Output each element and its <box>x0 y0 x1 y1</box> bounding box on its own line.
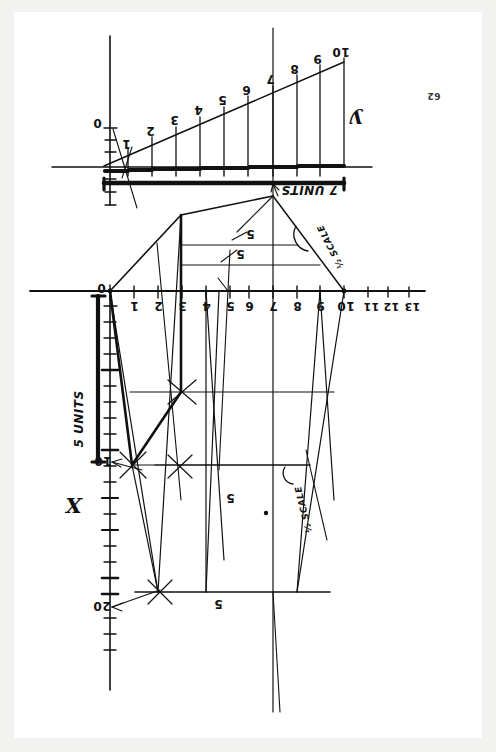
x-tick-1: 1 <box>130 300 139 312</box>
scanned-page: 0 1 2 3 4 5 6 7 8 9 10 y 7 UNITS 62 ½ SC… <box>0 0 496 752</box>
five-units-label: 5 UNITS <box>73 390 85 447</box>
callout-five-1: 5 <box>246 228 255 240</box>
marker-dot <box>264 511 268 515</box>
diag-tick-7: 7 <box>266 73 275 85</box>
x-tick-10: 10 <box>337 300 355 312</box>
callout-five-4: 5 <box>214 598 223 610</box>
x-tick-8: 8 <box>293 300 302 312</box>
x-tick-5: 5 <box>226 300 235 312</box>
technical-drawing <box>0 0 496 752</box>
diag-tick-2: 2 <box>146 125 155 137</box>
x-tick-2: 2 <box>154 300 163 312</box>
fan-line-a <box>110 291 158 592</box>
y-tick-10: 10 <box>94 455 112 467</box>
x-tick-7: 7 <box>269 300 278 312</box>
cross-marks <box>120 380 196 604</box>
leader-to-20-head-b <box>112 607 122 611</box>
diag-tick-4: 4 <box>194 104 203 116</box>
fan-line-k <box>297 291 344 592</box>
callout-five-2: 5 <box>236 248 245 260</box>
fan-line-i <box>297 291 320 592</box>
diag-tick-8: 8 <box>290 63 299 75</box>
diag-tick-1: 1 <box>122 138 131 150</box>
fan-line-m <box>237 196 273 232</box>
diag-tick-0: 0 <box>93 117 102 129</box>
diag-tick-3: 3 <box>170 114 179 126</box>
half-scale-arc-lower <box>283 467 293 484</box>
x-tick-9: 9 <box>316 300 325 312</box>
five-callout-leader-3 <box>218 278 228 291</box>
origin-dot <box>108 289 113 294</box>
x-tick-12: 12 <box>383 301 399 312</box>
diag-tick-6: 6 <box>242 84 251 96</box>
x-tick-6: 6 <box>245 300 254 312</box>
x-tick-0: 0 <box>97 282 106 294</box>
y-axis-label: y <box>350 110 363 131</box>
y-tick-20: 20 <box>93 600 111 612</box>
x-tick-3: 3 <box>178 300 187 312</box>
leader-to-20-head-a <box>112 603 123 607</box>
bottom-tail-line <box>273 592 280 712</box>
fan-line-j <box>320 291 334 500</box>
leader-to-10-head-a <box>112 459 122 462</box>
x-tick-4: 4 <box>202 300 211 312</box>
endpoint-dot <box>342 289 347 294</box>
fan-line-b <box>132 465 158 592</box>
half-scale-arc-upper <box>294 226 308 251</box>
x-tick-11: 11 <box>363 301 379 312</box>
envelope-upper-left <box>110 196 273 291</box>
page-number: 62 <box>427 91 441 100</box>
diag-tick-9: 9 <box>313 53 322 65</box>
x-tick-13: 13 <box>404 301 420 312</box>
x-axis-label: X <box>65 495 82 516</box>
horizontal-axis-ticks <box>110 285 409 300</box>
callout-five-3: 5 <box>226 492 235 504</box>
fan-line-g <box>206 291 219 592</box>
five-callout-leader-1 <box>232 232 247 240</box>
diag-tick-5: 5 <box>218 94 227 106</box>
fan-line-h <box>219 250 230 470</box>
diag-tick-10: 10 <box>332 46 350 58</box>
seven-units-label: 7 UNITS <box>281 184 338 196</box>
